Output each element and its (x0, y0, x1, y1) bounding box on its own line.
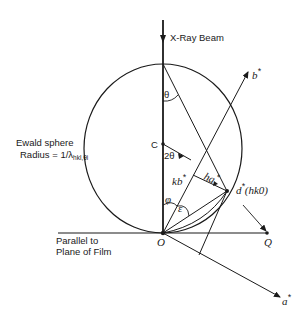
beam-label: X-Ray Beam (170, 32, 224, 43)
theta-label: θ (164, 89, 169, 100)
point-origin (161, 231, 165, 235)
d-star-label: d*(hk0) (236, 181, 268, 197)
q-pointer (243, 205, 266, 231)
two-theta-label: 2θ (164, 150, 175, 161)
ewald-sphere-diagram: X-Ray Beam θ C 2θ Ewald sphere Radius = … (0, 0, 305, 316)
a-star-axis (163, 233, 280, 297)
film-label-line1: Parallel to (56, 235, 98, 246)
point-d-star (225, 189, 229, 193)
b-star-label: b* (252, 66, 262, 81)
center-label: C (151, 139, 158, 150)
film-label-line2: Plane of Film (56, 246, 112, 257)
ha-star-label: ha* (202, 167, 222, 187)
ewald-label-line2: Radius = 1/λhkl,θi (20, 149, 88, 161)
epsilon-label: ε (178, 202, 183, 214)
ewald-label-line1: Ewald sphere (16, 137, 74, 148)
point-c (161, 142, 165, 146)
phi-label: φ (165, 193, 171, 205)
b-star-axis (163, 72, 248, 233)
a-star-label: a* (282, 292, 292, 307)
point-q (265, 231, 269, 235)
origin-label: O (157, 236, 165, 248)
q-label: Q (264, 236, 272, 248)
kb-star-label: kb* (172, 172, 186, 187)
beam-arrow-icon (160, 35, 166, 43)
